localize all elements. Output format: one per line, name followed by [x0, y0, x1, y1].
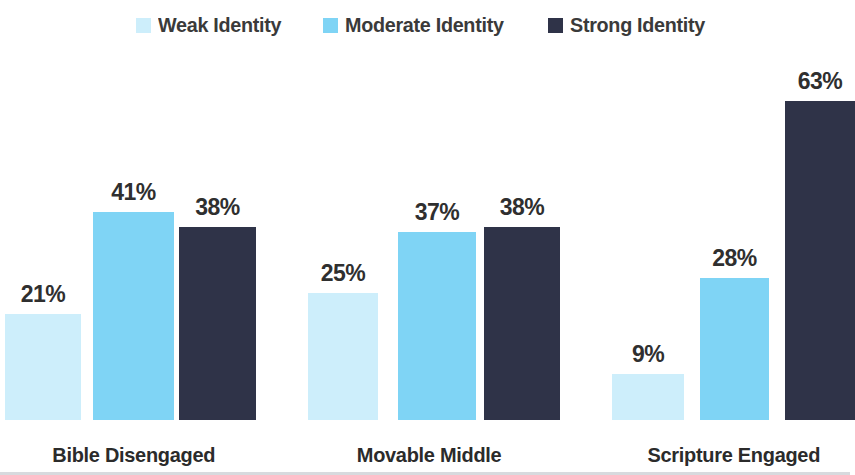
bar-group-movable-middle: 25% 37% 38% [300, 52, 570, 420]
bar-slot: 38% [484, 0, 560, 420]
bar-value-label: 63% [798, 68, 843, 95]
bar-moderate-identity[interactable] [700, 278, 769, 420]
bar-value-label: 25% [321, 260, 366, 287]
bar-slot: 37% [398, 0, 476, 420]
category-axis-labels: Bible Disengaged Movable Middle Scriptur… [0, 443, 850, 471]
bar-value-label: 37% [415, 199, 460, 226]
bar-slot: 41% [93, 0, 174, 420]
bar-strong-identity[interactable] [484, 227, 560, 420]
bar-value-label: 38% [500, 194, 545, 221]
bar-strong-identity[interactable] [179, 227, 256, 420]
bar-strong-identity[interactable] [785, 101, 855, 420]
category-label-bible-disengaged: Bible Disengaged [52, 443, 215, 467]
bar-group-bible-disengaged: 21% 41% 38% [0, 52, 262, 420]
category-label-scripture-engaged: Scripture Engaged [648, 443, 821, 467]
bar-value-label: 38% [195, 194, 240, 221]
bar-slot: 9% [612, 0, 684, 420]
bar-slot: 38% [179, 0, 256, 420]
bar-moderate-identity[interactable] [93, 212, 174, 420]
bar-slot: 63% [785, 0, 855, 420]
bar-slot: 21% [5, 0, 81, 420]
bar-value-label: 28% [712, 245, 757, 272]
bar-value-label: 9% [632, 341, 664, 368]
bar-weak-identity[interactable] [308, 293, 378, 420]
plot-area: 21% 41% 38% 25% 37% 38% [0, 52, 850, 420]
bar-weak-identity[interactable] [612, 374, 684, 420]
bar-value-label: 21% [21, 281, 66, 308]
category-label-movable-middle: Movable Middle [357, 443, 502, 467]
bar-group-scripture-engaged: 9% 28% 63% [605, 52, 850, 420]
bar-slot: 28% [700, 0, 769, 420]
bar-weak-identity[interactable] [5, 314, 81, 420]
bar-value-label: 41% [111, 179, 156, 206]
bar-moderate-identity[interactable] [398, 232, 476, 420]
bar-slot: 25% [308, 0, 378, 420]
